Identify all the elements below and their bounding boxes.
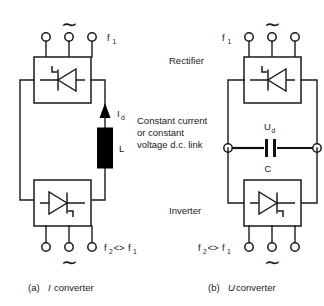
svg-text:1: 1 [133,248,137,255]
right-top-frequency-label: f 1 [222,32,232,45]
right-circuit-U-converter: ∼ f 1 [198,13,321,293]
right-caption: (b) U converter [208,282,276,293]
left-dc-negative-wire [20,80,34,200]
capacitor-label: C [265,163,272,174]
svg-text:f: f [222,32,225,43]
terminal-circle [268,33,276,41]
svg-text:(a): (a) [28,282,40,293]
ac-tilde-icon-top-right: ∼ [264,13,281,35]
terminal-circle [42,243,50,251]
svg-text:converter: converter [54,282,94,293]
dc-link-label-line1: Constant current [137,115,208,126]
svg-text:1: 1 [113,38,117,45]
right-top-terminals [245,33,299,57]
ac-tilde-icon-bottom-left: ∼ [61,251,78,273]
svg-text:converter: converter [236,282,276,293]
terminal-circle [245,33,253,41]
left-top-frequency-label: f 1 [107,32,117,45]
terminal-circle [42,33,50,41]
terminal-circle [245,243,253,251]
center-annotations: Rectifier Constant current or constant v… [137,55,208,216]
svg-text:U: U [228,282,235,293]
terminal-circle [291,33,299,41]
converter-diagram: ∼ f 1 [0,0,324,306]
left-bottom-terminals [42,226,96,251]
right-dc-right-rail-lower [301,148,317,203]
left-inductor-L [98,128,113,168]
left-current-label: I d [117,108,125,121]
right-dc-link-capacitor: U d C [224,121,321,174]
left-current-arrow-Id: I d [100,103,126,121]
terminal-circle [65,33,73,41]
ac-tilde-icon-top-left: ∼ [61,13,78,35]
inductor-label: L [119,143,124,154]
terminal-circle [65,243,73,251]
svg-text:2: 2 [203,248,207,255]
svg-text:1: 1 [227,248,231,255]
svg-text:U: U [264,121,271,132]
ac-tilde-icon-bottom-right: ∼ [264,251,281,273]
right-dc-right-rail-upper [301,80,317,148]
right-voltage-label: U d [264,121,276,134]
left-dc-positive-wire-upper [91,80,105,105]
svg-text:f: f [222,242,225,253]
svg-text:f: f [128,242,131,253]
svg-text:d: d [272,127,276,134]
svg-text:(b): (b) [208,282,220,293]
left-caption: (a) I converter [28,282,94,293]
left-bottom-frequency-label: f 2 <> f 1 [104,242,137,255]
svg-text:f: f [104,242,107,253]
terminal-circle [88,33,96,41]
inverter-label: Inverter [169,205,201,216]
svg-text:2: 2 [109,248,113,255]
svg-text:<>: <> [114,242,126,253]
terminal-circle [88,243,96,251]
svg-text:I: I [48,282,51,293]
terminal-circle [291,243,299,251]
left-top-terminals [42,33,96,57]
rectifier-label: Rectifier [169,55,204,66]
svg-text:d: d [121,114,125,121]
svg-text:<>: <> [208,242,220,253]
svg-text:I: I [117,108,120,119]
left-circuit-I-converter: ∼ f 1 [20,13,137,293]
right-dc-left-rail-lower [228,148,244,203]
svg-text:1: 1 [228,38,232,45]
dc-link-label-line3: voltage d.c. link [137,139,203,150]
svg-text:f: f [107,32,110,43]
right-bottom-terminals [245,226,299,251]
terminal-circle [268,243,276,251]
dc-link-label-line2: or constant [137,127,184,138]
left-dc-positive-wire-lower [91,168,105,200]
right-bottom-frequency-label: f 2 <> f 1 [198,242,231,255]
svg-text:f: f [198,242,201,253]
right-dc-left-rail-upper [228,80,244,148]
